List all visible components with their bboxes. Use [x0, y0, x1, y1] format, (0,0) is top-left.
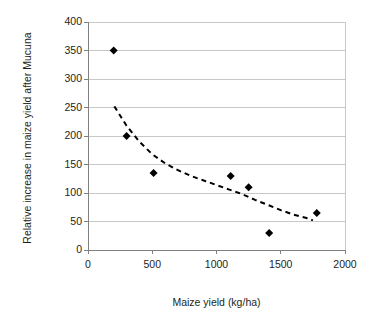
data-point-marker [313, 209, 321, 217]
data-point-marker [265, 229, 273, 237]
trendline-path [114, 106, 313, 220]
trendline [114, 106, 313, 220]
chart-figure: Relative increase in maize yield after M… [0, 0, 373, 322]
tick-marks [84, 22, 345, 254]
plot-area [0, 0, 373, 322]
data-point-marker [110, 47, 118, 55]
data-points [110, 47, 321, 237]
data-point-marker [150, 169, 158, 177]
data-point-marker [123, 132, 131, 140]
data-point-marker [245, 183, 253, 191]
data-point-marker [227, 172, 235, 180]
